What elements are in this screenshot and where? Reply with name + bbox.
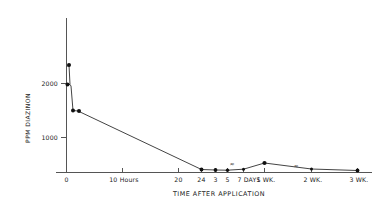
data-point-initial [66, 83, 70, 87]
data-point-2-wk [310, 168, 313, 171]
x-tick-label-0: 0 [64, 176, 68, 183]
x-axis-title: TIME AFTER APPLICATION [172, 190, 265, 198]
data-point-1-wk [262, 161, 266, 165]
y-tick-label-1000: 1000 [41, 134, 58, 141]
x-tick-label-5-days: 5 [225, 176, 229, 183]
data-point-peak [67, 63, 71, 67]
x-tick-label-2-wk: 2 WK. [303, 176, 322, 183]
x-tick-label-3-days: 3 [213, 176, 217, 183]
data-point-24-hours [200, 168, 204, 172]
x-tick-label-20: 20 [174, 176, 182, 183]
x-tick-label-1-wk: 1 WK. [256, 176, 275, 183]
x-tick-label-3-wk: 3 WK. [349, 176, 368, 183]
diazinon-decay-line-chart: 2000 1000 PPM DIAZINON 0 10 Hours 20 24 … [0, 0, 381, 217]
axis-break-symbol-2: ≈ [294, 163, 299, 169]
data-point-3-days [214, 168, 218, 172]
data-point-5-days [226, 169, 229, 172]
y-tick-label-2000: 2000 [41, 80, 58, 87]
x-tick-label-24: 24 [197, 176, 205, 183]
data-point-3-wk [356, 169, 360, 173]
x-tick-label-10-hours: 10 Hours [109, 176, 139, 183]
data-series-line [67, 65, 358, 171]
axis-break-symbol-1: ≈ [230, 161, 235, 167]
data-point-4-hours [77, 109, 81, 113]
data-point-7-days [242, 168, 245, 171]
y-axis-title: PPM DIAZINON [24, 93, 31, 143]
chart-container: 2000 1000 PPM DIAZINON 0 10 Hours 20 24 … [0, 0, 381, 217]
data-point-3-hours [71, 109, 75, 113]
